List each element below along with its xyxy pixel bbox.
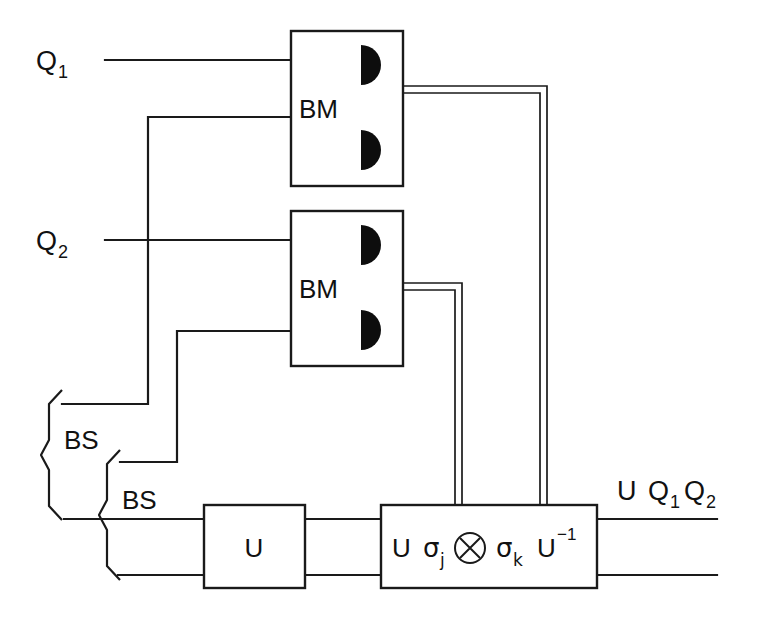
output-label-q2-sub: 2 [706,492,716,512]
correction-gate-box [381,505,597,588]
correction-gate-suffix-sup: −1 [557,525,576,544]
bs-lower-brace [99,450,120,580]
output-label-u: U [617,476,637,506]
bm-bottom-label: BM [299,274,338,304]
bs-upper-label: BS [64,425,99,455]
bs-upper-brace [41,390,62,520]
correction-gate-sigma-k: σ [496,533,512,563]
output-label-q1-sub: 1 [670,492,680,512]
classical-wire-bm-bottom-a [403,283,462,505]
circuit-diagram: BM BM BS BS U U σ [0,0,762,627]
input-label-q2-sub: 2 [58,242,68,262]
output-label-q2: Q [684,476,705,506]
u-gate-label: U [245,533,264,563]
classical-wire-bm-top-a [403,86,547,505]
bs-lower-label: BS [122,485,157,515]
correction-gate-suffix: U [537,533,556,563]
circuit-svg: BM BM BS BS U U σ [0,0,762,627]
bm-top-label: BM [299,94,338,124]
input-label-q1: Q [36,46,57,76]
correction-gate-sigma-j: σ [423,533,439,563]
correction-gate-sigma-j-sub: j [439,550,445,570]
classical-wire-bm-bottom-b [403,290,455,505]
correction-gate-prefix: U [392,533,411,563]
output-label-q1: Q [648,476,669,506]
input-label-q1-sub: 1 [58,62,68,82]
classical-wire-bm-top-b [403,93,540,505]
input-label-q2: Q [36,226,57,256]
wire-bs-lower-to-bm-bottom [120,331,291,462]
correction-gate-sigma-k-sub: k [513,550,523,570]
